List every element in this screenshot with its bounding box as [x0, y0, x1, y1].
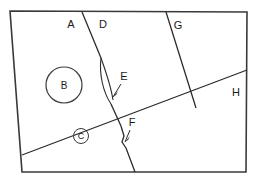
boundary-a-d-kink [121, 126, 126, 148]
callout-leader-e [113, 84, 121, 97]
callout-label-f: F [129, 116, 136, 128]
diagram-svg: B C A D G H E F [0, 0, 258, 183]
region-label-h: H [232, 86, 240, 98]
boundary-a-d-mid [111, 104, 121, 126]
region-label-d: D [99, 18, 107, 30]
region-label-g: G [174, 19, 183, 31]
circle-label-b-text: B [61, 80, 68, 91]
boundary-a-d-lower [126, 148, 135, 172]
boundary-h-line [22, 70, 247, 155]
callout-label-e: E [120, 70, 127, 82]
diagram-canvas: B C A D G H E F [0, 0, 258, 183]
region-label-a: A [67, 18, 75, 30]
boundary-a-d-lens-left [100, 58, 111, 104]
outer-quadrilateral-frame [10, 11, 247, 172]
boundary-a-d-lens-right [101, 58, 113, 100]
circle-label-c-text: C [78, 131, 85, 141]
